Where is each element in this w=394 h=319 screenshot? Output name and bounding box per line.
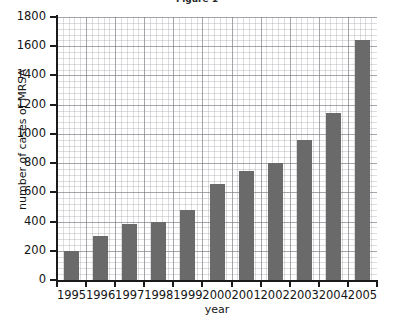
x-axis-tick xyxy=(143,281,145,287)
x-axis-line xyxy=(56,280,378,282)
y-axis-tick-label: 200 xyxy=(6,245,46,256)
x-axis-title: year xyxy=(57,304,377,315)
bar xyxy=(239,171,254,280)
x-axis-tick xyxy=(172,281,174,287)
x-axis-tick xyxy=(376,281,378,287)
y-axis-tick xyxy=(50,74,57,76)
x-axis-tick xyxy=(260,281,262,287)
y-axis-title: number of cases of MRSA xyxy=(17,50,28,230)
y-axis-line xyxy=(56,15,58,282)
y-axis-tick xyxy=(50,16,57,18)
bar xyxy=(64,251,79,280)
x-axis-tick xyxy=(201,281,203,287)
x-axis-tick xyxy=(318,281,320,287)
y-axis-tick xyxy=(50,191,57,193)
mrsa-bar-chart: Figure 1 0200400600800100012001400160018… xyxy=(0,0,394,319)
x-axis-tick-label: 2005 xyxy=(342,289,382,301)
chart-title: Figure 1 xyxy=(0,0,394,4)
bar xyxy=(297,140,312,280)
bar xyxy=(122,224,137,280)
bar xyxy=(210,184,225,280)
y-axis-tick xyxy=(50,221,57,223)
x-axis-tick xyxy=(347,281,349,287)
bar xyxy=(326,113,341,280)
y-axis-tick xyxy=(50,162,57,164)
y-axis-tick xyxy=(50,104,57,106)
x-axis-tick xyxy=(56,281,58,287)
y-axis-tick xyxy=(50,133,57,135)
x-axis-tick xyxy=(85,281,87,287)
y-axis-tick xyxy=(50,45,57,47)
y-axis-tick-label: 1800 xyxy=(6,11,46,22)
bar xyxy=(268,163,283,280)
x-axis-tick xyxy=(231,281,233,287)
y-axis-tick-label: 0 xyxy=(6,274,46,285)
bar xyxy=(180,210,195,280)
x-axis-tick xyxy=(114,281,116,287)
x-axis-tick xyxy=(289,281,291,287)
bar xyxy=(93,236,108,280)
y-axis-tick xyxy=(50,250,57,252)
bar xyxy=(355,40,370,280)
bar xyxy=(151,222,166,280)
